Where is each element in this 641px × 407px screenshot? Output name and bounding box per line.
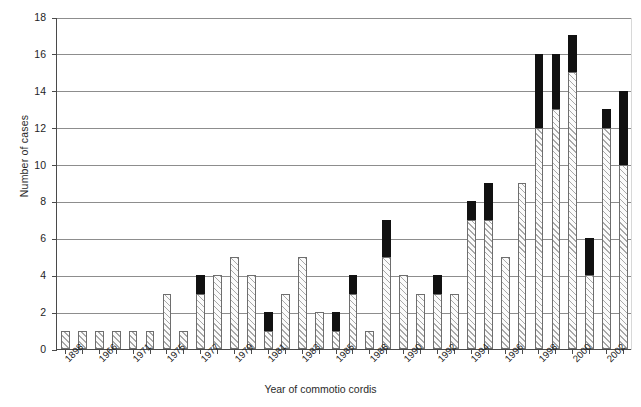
y-tick-12 [52, 128, 57, 129]
y-tick-label-14: 14 [16, 86, 46, 97]
bar-segment-died [535, 54, 544, 128]
bar-segment-survived [450, 294, 459, 349]
bar-1991 [416, 294, 425, 349]
bar-segment-survived [501, 257, 510, 349]
bar-segment-survived [382, 257, 391, 349]
bar-segment-survived [416, 294, 425, 349]
bar-1989 [382, 220, 391, 349]
y-tick-label-6: 6 [16, 233, 46, 244]
bar-segment-survived [484, 220, 493, 349]
y-tick-18 [52, 18, 57, 19]
bar-segment-survived [230, 257, 239, 349]
bar-segment-died [619, 91, 628, 165]
bar-segment-survived [213, 275, 222, 349]
y-tick-label-8: 8 [16, 196, 46, 207]
bar-segment-survived [552, 109, 561, 349]
bar-1998 [535, 54, 544, 349]
bar-segment-died [585, 238, 594, 275]
bar-1997 [518, 183, 527, 349]
bar-1980 [247, 275, 256, 349]
bar-segment-died [602, 109, 611, 127]
bar-segment-survived [61, 331, 70, 349]
bar-segment-survived [602, 128, 611, 349]
y-tick-8 [52, 202, 57, 203]
gridline-6 [57, 239, 632, 240]
bar-segment-died [332, 312, 341, 330]
bar-1990 [399, 275, 408, 349]
bar-segment-died [552, 54, 561, 109]
bar-1983 [298, 257, 307, 349]
bar-segment-survived [467, 220, 476, 349]
bar-1966 [95, 331, 104, 349]
bar-1982 [281, 294, 290, 349]
gridline-18 [57, 18, 632, 19]
gridline-14 [57, 91, 632, 92]
bar-segment-died [196, 275, 205, 293]
bar-segment-died [484, 183, 493, 220]
y-tick-label-16: 16 [16, 49, 46, 60]
y-tick-14 [52, 91, 57, 92]
bar-segment-survived [619, 165, 628, 349]
bar-2000 [568, 35, 577, 349]
y-tick-label-0: 0 [16, 344, 46, 355]
bar-segment-survived [518, 183, 527, 349]
y-tick-label-2: 2 [16, 307, 46, 318]
bar-1995 [484, 183, 493, 349]
bar-segment-survived [163, 294, 172, 349]
y-tick-4 [52, 276, 57, 277]
y-tick-label-18: 18 [16, 12, 46, 23]
bar-1981 [264, 312, 273, 349]
bar-segment-survived [196, 294, 205, 349]
bar-segment-survived [349, 294, 358, 349]
bar-1999 [552, 54, 561, 349]
bar-1978 [213, 275, 222, 349]
bar-segment-survived [129, 331, 138, 349]
bar-segment-died [349, 275, 358, 293]
y-tick-label-10: 10 [16, 160, 46, 171]
gridline-8 [57, 202, 632, 203]
bar-1977 [196, 275, 205, 349]
y-tick-16 [52, 54, 57, 55]
chart-figure: Number of cases 024681012141618 18981966… [0, 0, 641, 407]
bar-segment-died [264, 312, 273, 330]
bar-segment-survived [568, 72, 577, 349]
bar-segment-survived [281, 294, 290, 349]
bar-1986 [349, 275, 358, 349]
y-tick-6 [52, 239, 57, 240]
bar-1898 [61, 331, 70, 349]
bar-2003 [619, 91, 628, 349]
bar-segment-survived [95, 331, 104, 349]
bar-2002 [602, 109, 611, 349]
bar-1975 [163, 294, 172, 349]
y-tick-2 [52, 313, 57, 314]
plot-area: 024681012141618 189819661971197519771979… [56, 18, 631, 350]
gridline-12 [57, 128, 632, 129]
gridline-16 [57, 54, 632, 55]
y-tick-10 [52, 165, 57, 166]
bar-segment-died [568, 35, 577, 72]
y-tick-label-12: 12 [16, 123, 46, 134]
bar-segment-survived [585, 275, 594, 349]
bar-segment-survived [332, 331, 341, 349]
bar-1992 [433, 275, 442, 349]
bar-2001 [585, 238, 594, 349]
gridline-10 [57, 165, 632, 166]
bar-segment-died [467, 201, 476, 219]
y-tick-label-4: 4 [16, 270, 46, 281]
bar-1979 [230, 257, 239, 349]
bar-1971 [129, 331, 138, 349]
bar-segment-survived [298, 257, 307, 349]
gridline-2 [57, 313, 632, 314]
bar-1996 [501, 257, 510, 349]
bar-1985 [332, 312, 341, 349]
bar-segment-survived [247, 275, 256, 349]
x-axis-title: Year of commotio cordis [0, 383, 641, 395]
bar-segment-died [382, 220, 391, 257]
bar-segment-survived [264, 331, 273, 349]
bar-segment-survived [365, 331, 374, 349]
y-tick-0 [52, 350, 57, 351]
gridline-4 [57, 276, 632, 277]
bar-1988 [365, 331, 374, 349]
bar-segment-died [433, 275, 442, 293]
bar-segment-survived [535, 128, 544, 349]
